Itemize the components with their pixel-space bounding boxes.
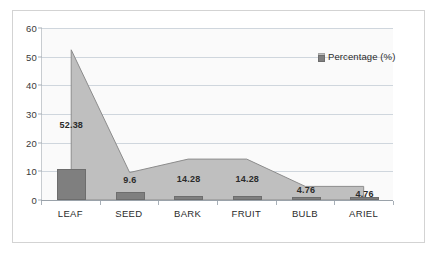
data-label-bulb: 4.76	[297, 185, 315, 195]
bar-seed	[116, 192, 145, 200]
ytick-label-50: 50	[26, 51, 37, 62]
data-label-bark: 14.28	[177, 174, 201, 184]
data-label-ariel: 4.76	[355, 189, 373, 199]
legend-label-percentage: Percentage (%)	[328, 51, 395, 62]
xcat-label-seed: SEED	[115, 208, 142, 219]
chart-legend: Percentage (%)	[318, 51, 395, 62]
x-axis: LEAF SEED BARK FRUIT BULB ARIEL	[41, 200, 393, 201]
xtick-mark-6	[393, 201, 394, 205]
xcat-label-bulb: BULB	[292, 208, 318, 219]
xtick-mark-3	[217, 201, 218, 205]
xtick-mark-1	[100, 201, 101, 205]
area-series-polygon	[71, 50, 363, 200]
xcat-label-fruit: FRUIT	[232, 208, 261, 219]
xcat-label-leaf: LEAF	[58, 208, 83, 219]
bar-leaf	[57, 169, 86, 201]
data-label-leaf: 52.38	[60, 120, 84, 130]
xtick-mark-4	[276, 201, 277, 205]
ytick-label-60: 60	[26, 23, 37, 34]
data-label-seed: 9.6	[123, 175, 136, 185]
ytick-label-40: 40	[26, 80, 37, 91]
chart-container: 60 50 40 30 20 10 0 52.38 9.6 14.28 14.2…	[12, 10, 425, 243]
ytick-label-30: 30	[26, 109, 37, 120]
ytick-label-0: 0	[32, 195, 37, 206]
xtick-mark-2	[158, 201, 159, 205]
data-label-fruit: 14.28	[236, 174, 260, 184]
ytick-label-10: 10	[26, 166, 37, 177]
ytick-label-20: 20	[26, 137, 37, 148]
xtick-mark-5	[334, 201, 335, 205]
xcat-label-bark: BARK	[174, 208, 201, 219]
legend-bar-swatch-icon	[318, 55, 325, 62]
xcat-label-ariel: ARIEL	[349, 208, 378, 219]
xtick-mark-0	[41, 201, 42, 205]
